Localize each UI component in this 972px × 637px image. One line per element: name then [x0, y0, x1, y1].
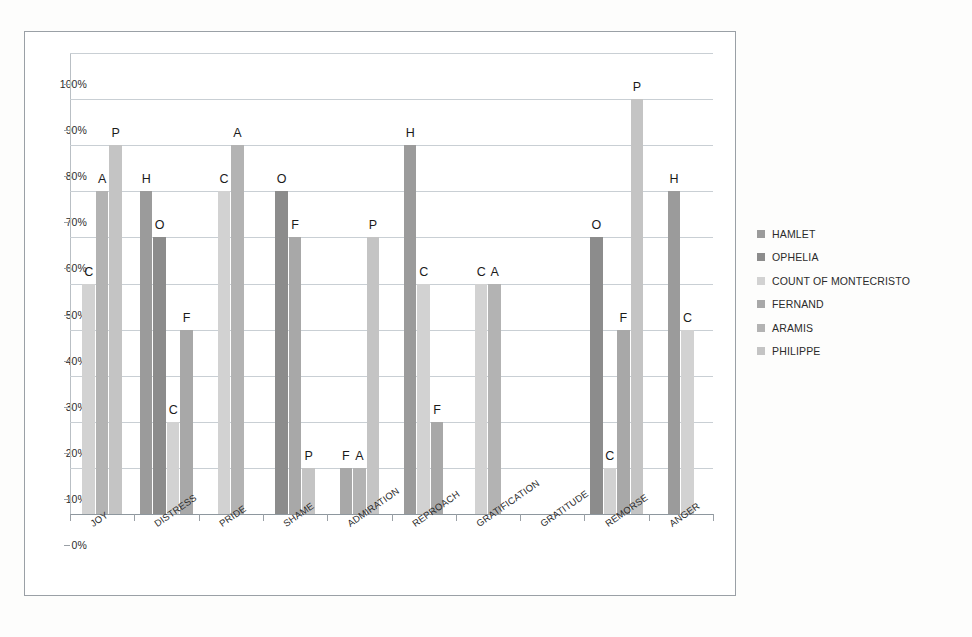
chart-frame: 0%10%20%30%40%50%60%70%80%90%100% CAPHOC…: [24, 31, 736, 596]
bar-value-label: A: [491, 265, 499, 279]
gridline-90: [70, 99, 713, 100]
bar-value-label: F: [433, 403, 441, 417]
x-axis-tick-mark: [584, 514, 585, 521]
bar-value-label: F: [291, 218, 299, 232]
bar-anger-C: [681, 330, 694, 514]
legend-label: OPHELIA: [772, 251, 819, 263]
legend-swatch-icon: [757, 253, 765, 261]
x-axis-tick-mark: [263, 514, 264, 521]
x-axis-tick-mark: [199, 514, 200, 521]
gridline-60: [70, 237, 713, 238]
bar-distress-C: [167, 422, 180, 514]
bar-gratification-A: [488, 284, 501, 515]
bar-anger-H: [668, 191, 681, 514]
bar-reproach-H: [404, 145, 417, 514]
legend-label: COUNT OF MONTECRISTO: [772, 275, 910, 287]
legend-label: ARAMIS: [772, 322, 813, 334]
legend-item-count-of-montecristo[interactable]: COUNT OF MONTECRISTO: [757, 269, 962, 293]
legend-swatch-icon: [757, 300, 765, 308]
bar-remorse-P: [631, 99, 644, 514]
bar-value-label: C: [605, 449, 614, 463]
bar-value-label: O: [277, 172, 287, 186]
legend-item-philippe[interactable]: PHILIPPE: [757, 340, 962, 364]
bar-remorse-O: [590, 237, 603, 514]
gridline-50: [70, 284, 713, 285]
legend-swatch-icon: [757, 277, 765, 285]
bar-value-label: H: [142, 172, 151, 186]
gridline-100: [70, 53, 713, 54]
bar-distress-O: [153, 237, 166, 514]
x-axis-tick-mark: [70, 514, 71, 521]
bar-value-label: H: [670, 172, 679, 186]
bar-value-label: C: [219, 172, 228, 186]
bar-value-label: C: [419, 265, 428, 279]
bar-shame-O: [275, 191, 288, 514]
bar-distress-H: [140, 191, 153, 514]
bar-pride-C: [218, 191, 231, 514]
x-axis-tick-mark: [392, 514, 393, 521]
bar-joy-A: [96, 191, 109, 514]
bar-value-label: O: [155, 218, 165, 232]
x-axis-tick-mark: [649, 514, 650, 521]
bar-value-label: H: [406, 126, 415, 140]
x-axis-tick-mark: [134, 514, 135, 521]
bar-value-label: F: [619, 311, 627, 325]
bar-value-label: F: [183, 311, 191, 325]
bar-remorse-C: [604, 468, 617, 514]
legend-label: FERNAND: [772, 298, 824, 310]
bar-value-label: A: [233, 126, 241, 140]
bar-value-label: A: [98, 172, 106, 186]
legend-swatch-icon: [757, 230, 765, 238]
legend-swatch-icon: [757, 324, 765, 332]
bar-value-label: C: [683, 311, 692, 325]
legend-label: PHILIPPE: [772, 345, 820, 357]
bar-value-label: P: [633, 80, 641, 94]
bar-joy-C: [82, 284, 95, 515]
bar-value-label: C: [477, 265, 486, 279]
legend-label: HAMLET: [772, 228, 816, 240]
bar-reproach-C: [417, 284, 430, 515]
x-axis-tick-mark: [327, 514, 328, 521]
x-axis-category-labels: JOYDISTRESSPRIDESHAMEADMIRATIONREPROACHG…: [70, 514, 713, 594]
legend-item-aramis[interactable]: ARAMIS: [757, 316, 962, 340]
bar-joy-P: [109, 145, 122, 514]
bar-value-label: P: [369, 218, 377, 232]
bar-value-label: C: [169, 403, 178, 417]
bar-admiration-P: [367, 237, 380, 514]
bar-shame-F: [289, 237, 302, 514]
bar-value-label: P: [304, 449, 312, 463]
legend-item-ophelia[interactable]: OPHELIA: [757, 246, 962, 270]
legend-item-fernand[interactable]: FERNAND: [757, 293, 962, 317]
x-axis-tick-mark: [456, 514, 457, 521]
bar-gratification-C: [475, 284, 488, 515]
legend-swatch-icon: [757, 347, 765, 355]
bar-value-label: O: [591, 218, 601, 232]
bar-remorse-F: [617, 330, 630, 514]
x-axis-tick-mark: [520, 514, 521, 521]
legend-item-hamlet[interactable]: HAMLET: [757, 222, 962, 246]
gridline-80: [70, 145, 713, 146]
chart-legend: HAMLETOPHELIACOUNT OF MONTECRISTOFERNAND…: [757, 222, 962, 363]
bar-value-label: A: [355, 449, 363, 463]
bar-pride-A: [231, 145, 244, 514]
bar-value-label: F: [342, 449, 350, 463]
x-axis-tick-mark: [713, 514, 714, 521]
bar-distress-F: [180, 330, 193, 514]
plot-area: CAPHOCFCAOFPFAPHCFCAOCFPHC: [70, 53, 713, 514]
bar-value-label: C: [84, 265, 93, 279]
bar-admiration-F: [340, 468, 353, 514]
bar-value-label: P: [111, 126, 119, 140]
gridline-70: [70, 191, 713, 192]
